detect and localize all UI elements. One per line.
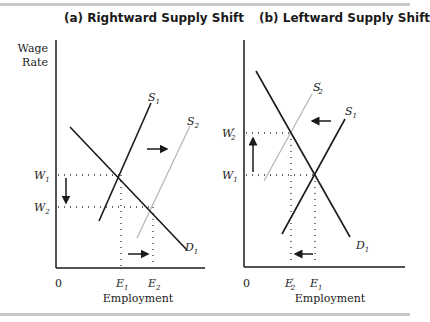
supply-curve-s1 bbox=[282, 119, 345, 234]
x-axis-label: Employment bbox=[103, 292, 174, 305]
e2-label: E2 bbox=[147, 277, 161, 292]
s1-label: S1 bbox=[148, 91, 160, 106]
supply-curve-s2 bbox=[137, 126, 190, 238]
y-axis-label-line1: Wage bbox=[18, 42, 48, 55]
panel-a: Wage Rate S1 S2 D1 W1 W2 0 E1 E2 Employm… bbox=[18, 40, 205, 305]
e2-prime-label: E′2 bbox=[284, 277, 296, 292]
e1-label: E1 bbox=[309, 277, 323, 292]
d1-label: D1 bbox=[184, 241, 198, 256]
d1-label: D1 bbox=[355, 239, 369, 254]
origin-label: 0 bbox=[55, 277, 62, 290]
demand-curve-d1 bbox=[256, 71, 350, 237]
w1-label: W1 bbox=[222, 169, 238, 184]
w2-double-prime-label: W″2 bbox=[222, 127, 236, 142]
panel-b: S′2 S1 D1 W″2 W1 0 E′2 E1 Employment bbox=[222, 40, 405, 305]
s2-label: S2 bbox=[187, 115, 200, 130]
origin-label: 0 bbox=[243, 277, 250, 290]
w2-label: W2 bbox=[34, 201, 50, 216]
demand-curve-d1 bbox=[70, 127, 187, 250]
supply-curve-s2-prime bbox=[264, 94, 312, 181]
y-axis-label-line2: Rate bbox=[22, 56, 48, 69]
s1-label: S1 bbox=[345, 105, 357, 120]
w1-label: W1 bbox=[34, 169, 50, 184]
e1-label: E1 bbox=[115, 277, 129, 292]
x-axis-label: Employment bbox=[295, 292, 366, 305]
s2-prime-label: S′2 bbox=[313, 81, 323, 96]
